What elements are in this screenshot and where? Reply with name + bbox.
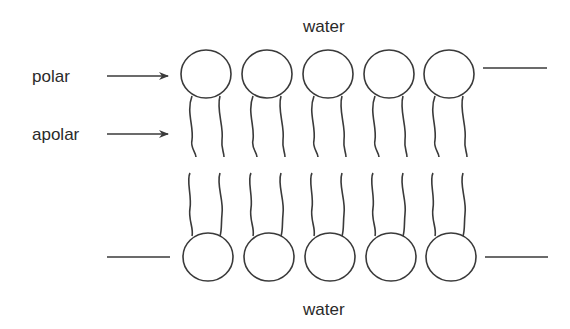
polar-head [183, 233, 233, 281]
polar-head [366, 233, 416, 281]
lipid-top-2 [242, 50, 292, 157]
polar-head [426, 233, 476, 281]
lipid-tail [372, 173, 376, 236]
lipid-tail [402, 96, 407, 157]
polar-head [364, 50, 414, 98]
apolar-label: apolar [32, 125, 80, 144]
lipid-bottom-4 [366, 173, 416, 281]
lipid-tail [190, 96, 196, 157]
lipid-tail [341, 173, 344, 236]
polar-head [181, 50, 231, 98]
water-label-bottom: water [302, 300, 345, 319]
lipid-tail [373, 96, 379, 157]
lipid-bottom-5 [426, 173, 476, 281]
lipid-bottom-2 [244, 173, 294, 281]
lipid-top-3 [303, 50, 353, 157]
lipid-tail [402, 173, 405, 236]
lipid-tail [462, 96, 467, 157]
lipid-bottom-3 [305, 173, 355, 281]
lipid-top-5 [424, 50, 474, 157]
lipid-tail [312, 96, 318, 157]
lipid-tail [432, 173, 436, 236]
polar-label: polar [32, 67, 70, 86]
lipid-top-1 [181, 50, 231, 157]
polar-head [303, 50, 353, 98]
top-leaflet [181, 50, 474, 157]
lipid-tail [219, 173, 222, 236]
lipid-tail [219, 96, 224, 157]
water-label-top: water [302, 17, 345, 36]
lipid-tail [462, 173, 465, 236]
lipid-tail [251, 96, 257, 157]
lipid-tail [280, 96, 285, 157]
polar-head [244, 233, 294, 281]
lipid-tail [250, 173, 254, 236]
lipid-tail [311, 173, 315, 236]
lipid-bottom-1 [183, 173, 233, 281]
lipid-tail [433, 96, 439, 157]
lipid-tail [280, 173, 283, 236]
polar-head [424, 50, 474, 98]
lipid-tail [189, 173, 193, 236]
lipid-top-4 [364, 50, 414, 157]
lipid-tail [341, 96, 346, 157]
lipid-bilayer-diagram: water water polar apolar [0, 0, 570, 329]
bottom-leaflet [183, 173, 476, 281]
polar-head [305, 233, 355, 281]
polar-head [242, 50, 292, 98]
